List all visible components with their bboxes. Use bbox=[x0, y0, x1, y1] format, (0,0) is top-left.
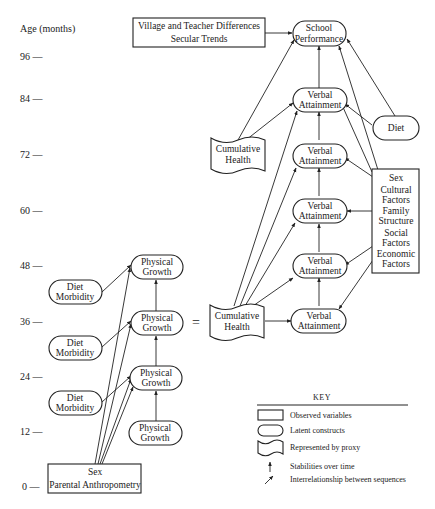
edge-sex-physical24 bbox=[100, 379, 131, 464]
svg-text:Morbidity: Morbidity bbox=[56, 348, 95, 358]
edge-cumtop-school bbox=[238, 40, 294, 140]
svg-text:Physical: Physical bbox=[141, 313, 174, 323]
svg-text:School: School bbox=[306, 23, 333, 33]
node-sex-parental-anthropometry: Sex Parental Anthropometry bbox=[48, 464, 141, 493]
svg-text:Physical: Physical bbox=[141, 257, 174, 267]
legend: KEY Observed variables Latent constructs… bbox=[257, 393, 408, 484]
svg-text:Parental Anthropometry: Parental Anthropometry bbox=[49, 480, 141, 490]
edge-sex-physical36 bbox=[98, 324, 131, 464]
svg-text:Cumulative: Cumulative bbox=[216, 144, 260, 154]
tick-12: 12 — bbox=[20, 426, 44, 437]
node-physical-12: Physical Growth bbox=[129, 421, 182, 445]
rounded-rect-icon bbox=[258, 425, 283, 436]
rectangle-icon bbox=[258, 410, 283, 420]
svg-text:Observed variables: Observed variables bbox=[290, 411, 352, 420]
svg-text:Morbidity: Morbidity bbox=[56, 403, 95, 413]
tick-96: 96 — bbox=[20, 51, 44, 62]
svg-text:Stabilities over time: Stabilities over time bbox=[290, 462, 355, 471]
edge-factors-verbal48 bbox=[345, 246, 373, 265]
edge-factors-verbal84 bbox=[342, 105, 372, 172]
svg-text:Health: Health bbox=[225, 155, 251, 165]
legend-item-stabilities: Stabilities over time bbox=[270, 462, 355, 472]
path-diagram: Age (months) 96 — 84 — 72 — 60 — 48 — 36… bbox=[0, 0, 435, 509]
tick-72: 72 — bbox=[20, 149, 44, 160]
legend-item-interrelationship: Interrelationship between sequences bbox=[265, 475, 406, 484]
svg-text:Factors: Factors bbox=[382, 195, 410, 205]
svg-text:Attainment: Attainment bbox=[299, 156, 342, 166]
svg-text:Diet: Diet bbox=[67, 338, 84, 348]
node-village-secular: Village and Teacher Differences Secular … bbox=[133, 18, 265, 47]
node-verbal-48: Verbal Attainment bbox=[293, 254, 347, 278]
node-physical-48: Physical Growth bbox=[131, 255, 183, 279]
node-diet-morbidity-42: Diet Morbidity bbox=[49, 280, 102, 304]
svg-text:Economic: Economic bbox=[377, 249, 416, 259]
svg-text:Factors: Factors bbox=[382, 238, 410, 248]
svg-text:Village and Teacher Difference: Village and Teacher Differences bbox=[138, 21, 260, 31]
svg-text:Family: Family bbox=[383, 206, 410, 216]
wave-icon bbox=[258, 440, 283, 456]
svg-text:Social: Social bbox=[384, 228, 408, 238]
legend-title: KEY bbox=[313, 393, 331, 402]
tick-24: 24 — bbox=[20, 371, 44, 382]
svg-text:Growth: Growth bbox=[142, 267, 171, 277]
node-physical-36: Physical Growth bbox=[131, 311, 183, 335]
svg-text:Verbal: Verbal bbox=[308, 201, 333, 211]
edges bbox=[95, 33, 395, 464]
svg-text:Physical: Physical bbox=[139, 423, 172, 433]
node-factors: Sex Cultural Factors Family Structure So… bbox=[372, 169, 419, 273]
svg-text:Verbal: Verbal bbox=[307, 311, 332, 321]
svg-text:Factors: Factors bbox=[382, 259, 410, 269]
node-cumulative-health-36: Cumulative Health bbox=[210, 304, 264, 341]
svg-text:Growth: Growth bbox=[142, 323, 171, 333]
tick-36: 36 — bbox=[20, 316, 44, 327]
svg-text:Attainment: Attainment bbox=[299, 211, 342, 221]
svg-text:Verbal: Verbal bbox=[308, 146, 333, 156]
node-verbal-72: Verbal Attainment bbox=[293, 144, 347, 168]
svg-text:Verbal: Verbal bbox=[308, 256, 333, 266]
svg-text:Morbidity: Morbidity bbox=[56, 292, 95, 302]
age-axis: Age (months) 96 — 84 — 72 — 60 — 48 — 36… bbox=[20, 23, 75, 492]
legend-item-proxy: Represented by proxy bbox=[258, 440, 360, 456]
tick-84: 84 — bbox=[20, 93, 44, 104]
svg-text:Physical: Physical bbox=[140, 368, 173, 378]
svg-text:Performance: Performance bbox=[295, 34, 344, 44]
edge-cum36-verbal72 bbox=[240, 168, 296, 306]
node-diet: Diet bbox=[373, 116, 419, 140]
node-verbal-84: Verbal Attainment bbox=[293, 88, 347, 112]
legend-item-observed: Observed variables bbox=[258, 410, 352, 420]
svg-text:Structure: Structure bbox=[379, 216, 414, 226]
svg-text:Cultural: Cultural bbox=[380, 185, 411, 195]
svg-text:Verbal: Verbal bbox=[308, 90, 333, 100]
edge-cumtop-verbal84 bbox=[246, 103, 293, 140]
svg-text:Diet: Diet bbox=[67, 393, 84, 403]
node-verbal-36: Verbal Attainment bbox=[291, 309, 346, 333]
svg-text:Growth: Growth bbox=[141, 378, 170, 388]
node-diet-morbidity-30: Diet Morbidity bbox=[49, 336, 102, 360]
tick-48: 48 — bbox=[20, 260, 44, 271]
edge-diet-school bbox=[347, 39, 395, 116]
legend-item-latent: Latent constructs bbox=[258, 425, 345, 436]
svg-text:Secular Trends: Secular Trends bbox=[171, 34, 228, 44]
svg-text:Cumulative: Cumulative bbox=[215, 311, 259, 321]
node-school-performance: School Performance bbox=[293, 21, 346, 46]
svg-text:Attainment: Attainment bbox=[299, 100, 342, 110]
svg-text:Health: Health bbox=[224, 322, 250, 332]
node-verbal-60: Verbal Attainment bbox=[293, 199, 347, 223]
svg-text:Diet: Diet bbox=[67, 282, 84, 292]
svg-text:Interrelationship between sequ: Interrelationship between sequences bbox=[290, 475, 406, 484]
svg-text:Represented by proxy: Represented by proxy bbox=[290, 443, 360, 452]
svg-text:Attainment: Attainment bbox=[298, 321, 341, 331]
node-cumulative-health-top: Cumulative Health bbox=[211, 137, 265, 174]
svg-text:Sex: Sex bbox=[389, 173, 404, 183]
svg-text:Growth: Growth bbox=[140, 433, 169, 443]
svg-text:Attainment: Attainment bbox=[299, 266, 342, 276]
node-physical-24: Physical Growth bbox=[130, 366, 182, 390]
tick-0: 0 — bbox=[22, 481, 41, 492]
svg-text:Diet: Diet bbox=[388, 123, 405, 133]
svg-text:Sex: Sex bbox=[88, 467, 103, 477]
tick-60: 60 — bbox=[20, 205, 44, 216]
node-diet-morbidity-18: Diet Morbidity bbox=[49, 391, 102, 415]
diagonal-arrow-icon bbox=[265, 476, 273, 484]
svg-text:Latent constructs: Latent constructs bbox=[290, 426, 345, 435]
axis-title: Age (months) bbox=[20, 23, 75, 35]
